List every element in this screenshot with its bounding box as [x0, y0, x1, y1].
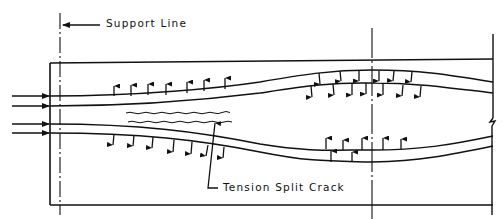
support-line-label: Support Line — [106, 17, 187, 29]
lower-tendon — [50, 124, 493, 162]
crack-leader — [208, 123, 218, 188]
tension-split-crack — [126, 112, 232, 123]
upper-tendon — [50, 70, 493, 106]
tension-split-crack-label: Tension Split Crack — [223, 181, 345, 193]
beam-end-break — [490, 34, 495, 215]
anchor-force-arrows — [12, 96, 49, 133]
upper-tendon-up-arrows — [114, 78, 225, 96]
